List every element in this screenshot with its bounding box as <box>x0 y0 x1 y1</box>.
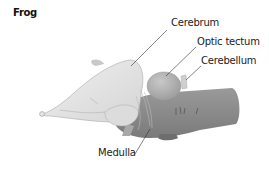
optic-nerve-shape <box>91 59 104 66</box>
optic-tectum-leader-line <box>166 47 196 76</box>
cerebrum-shape <box>40 60 143 126</box>
label-optic-tectum: Optic tectum <box>197 36 260 47</box>
label-cerebrum: Cerebrum <box>171 17 219 28</box>
cerebrum-leader-line <box>131 30 167 66</box>
frog-brain-illustration <box>0 0 269 169</box>
optic-tectum-shape <box>147 72 181 100</box>
label-cerebellum: Cerebellum <box>201 55 256 66</box>
cerebellum-shape <box>181 75 187 89</box>
label-medulla: Medulla <box>98 147 136 158</box>
cerebellum-leader-line <box>186 66 201 80</box>
